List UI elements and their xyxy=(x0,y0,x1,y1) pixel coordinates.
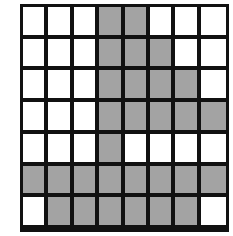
grid-cell[interactable] xyxy=(150,134,175,166)
grid-cell[interactable] xyxy=(74,197,99,229)
grid-cell[interactable] xyxy=(201,197,226,229)
grid-row xyxy=(23,166,226,198)
grid-cell[interactable] xyxy=(125,70,150,102)
grid-cell[interactable] xyxy=(175,166,200,198)
grid-cell[interactable] xyxy=(23,102,48,134)
grid-cell[interactable] xyxy=(201,134,226,166)
grid-cell[interactable] xyxy=(175,39,200,71)
grid-cell[interactable] xyxy=(23,166,48,198)
grid-row xyxy=(23,7,226,39)
grid-body xyxy=(23,7,226,229)
grid-row xyxy=(23,70,226,102)
grid-cell[interactable] xyxy=(125,166,150,198)
grid-cell[interactable] xyxy=(150,39,175,71)
grid-cell[interactable] xyxy=(48,70,73,102)
grid-cell[interactable] xyxy=(175,197,200,229)
grid-cell[interactable] xyxy=(23,70,48,102)
grid-cell[interactable] xyxy=(48,166,73,198)
grid-cell[interactable] xyxy=(23,7,48,39)
grid-cell[interactable] xyxy=(99,197,124,229)
grid-cell[interactable] xyxy=(74,70,99,102)
grid-cell[interactable] xyxy=(48,39,73,71)
grid-cell[interactable] xyxy=(74,39,99,71)
grid-cell[interactable] xyxy=(99,70,124,102)
grid-cell[interactable] xyxy=(125,102,150,134)
grid-cell[interactable] xyxy=(99,102,124,134)
grid-cell[interactable] xyxy=(201,166,226,198)
grid-cell[interactable] xyxy=(175,7,200,39)
grid-cell[interactable] xyxy=(150,166,175,198)
grid-cell[interactable] xyxy=(125,134,150,166)
grid-cell[interactable] xyxy=(99,7,124,39)
grid-cell[interactable] xyxy=(48,7,73,39)
grid-cell[interactable] xyxy=(23,197,48,229)
grid-row xyxy=(23,134,226,166)
grid-cell[interactable] xyxy=(74,166,99,198)
grid-cell[interactable] xyxy=(150,70,175,102)
grid-cell[interactable] xyxy=(175,102,200,134)
grid-cell[interactable] xyxy=(23,134,48,166)
grid-cell[interactable] xyxy=(99,166,124,198)
grid-cell[interactable] xyxy=(201,102,226,134)
grid-cell[interactable] xyxy=(201,70,226,102)
grid-table xyxy=(23,7,226,229)
grid-cell[interactable] xyxy=(48,134,73,166)
grid-cell[interactable] xyxy=(48,197,73,229)
grid-cell[interactable] xyxy=(175,134,200,166)
grid-frame xyxy=(20,4,229,232)
grid-cell[interactable] xyxy=(201,7,226,39)
grid-cell[interactable] xyxy=(125,39,150,71)
grid-cell[interactable] xyxy=(23,39,48,71)
grid-row xyxy=(23,39,226,71)
grid-cell[interactable] xyxy=(150,197,175,229)
grid-cell[interactable] xyxy=(150,102,175,134)
grid-cell[interactable] xyxy=(99,134,124,166)
grid-cell[interactable] xyxy=(201,39,226,71)
grid-cell[interactable] xyxy=(125,197,150,229)
grid-cell[interactable] xyxy=(74,102,99,134)
grid-cell[interactable] xyxy=(99,39,124,71)
grid-cell[interactable] xyxy=(125,7,150,39)
grid-cell[interactable] xyxy=(150,7,175,39)
grid-cell[interactable] xyxy=(175,70,200,102)
grid-row xyxy=(23,197,226,229)
grid-cell[interactable] xyxy=(74,134,99,166)
grid-cell[interactable] xyxy=(74,7,99,39)
grid-figure xyxy=(0,0,233,236)
grid-row xyxy=(23,102,226,134)
grid-cell[interactable] xyxy=(48,102,73,134)
